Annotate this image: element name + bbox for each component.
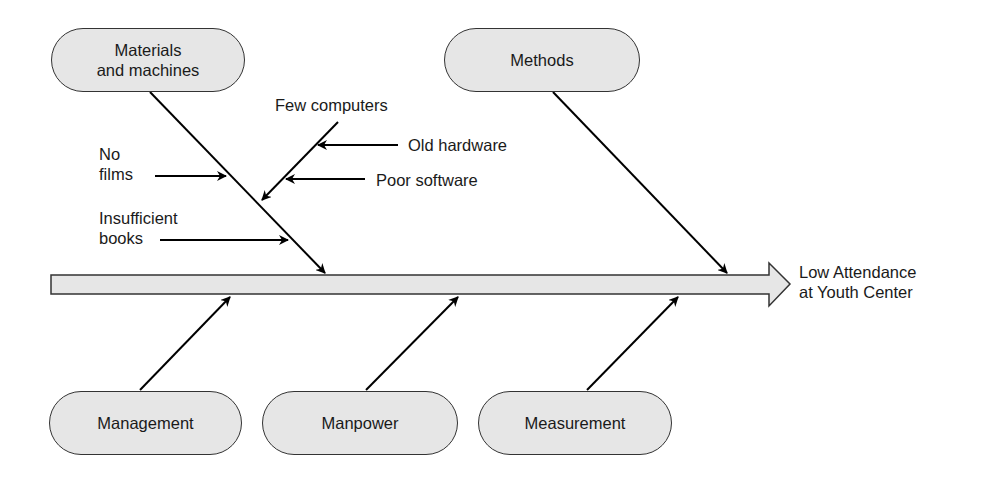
few-computers-arrow: [262, 122, 338, 200]
cause-no-films: Nofilms: [99, 144, 133, 184]
category-materials-box: Materialsand machines: [51, 28, 245, 92]
manpower-label: Manpower: [321, 413, 398, 433]
methods-label: Methods: [510, 50, 573, 70]
category-management-box: Management: [49, 391, 242, 455]
category-measurement-box: Measurement: [478, 391, 672, 455]
measurement-label: Measurement: [525, 413, 626, 433]
category-methods-box: Methods: [444, 28, 640, 92]
cause-insufficient-books: Insufficientbooks: [99, 208, 178, 248]
category-manpower-box: Manpower: [262, 391, 458, 455]
cause-few-computers: Few computers: [275, 95, 388, 115]
management-branch: [140, 297, 230, 390]
cause-old-hardware: Old hardware: [408, 135, 507, 155]
materials-label-2: and machines: [97, 61, 200, 79]
methods-branch: [553, 92, 727, 273]
management-label: Management: [97, 413, 193, 433]
effect-label: Low Attendanceat Youth Center: [799, 262, 916, 302]
manpower-branch: [366, 297, 458, 390]
materials-label-1: Materials: [115, 41, 182, 59]
measurement-branch: [587, 297, 678, 390]
cause-poor-software: Poor software: [376, 170, 478, 190]
spine-arrow: [51, 263, 790, 306]
